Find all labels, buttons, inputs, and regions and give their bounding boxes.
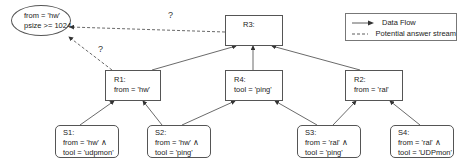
legend: Data Flow Potential answer stream xyxy=(345,13,457,41)
node-r1: R1: from = 'hw' xyxy=(105,70,161,101)
node-s4-line-1: from = 'ral' ∧ xyxy=(398,138,453,148)
edge-r3-query xyxy=(70,27,225,32)
edge-s2-r4 xyxy=(182,101,235,125)
solid-arrow-icon xyxy=(352,20,374,26)
node-s3: S3: from = 'ral' ∧ tool = 'ping' xyxy=(297,125,361,158)
node-r4: R4: tool = 'ping' xyxy=(225,70,283,101)
legend-label-data-flow: Data Flow xyxy=(382,17,416,28)
edge-s3-r2 xyxy=(333,101,356,125)
question-mark-left: ? xyxy=(98,44,103,54)
legend-item-potential-answer: Potential answer stream xyxy=(352,28,456,39)
node-s3-line-1: from = 'ral' ∧ xyxy=(305,138,360,148)
node-s2-line-1: from = 'hw' ∧ xyxy=(155,138,210,148)
node-s4-line-2: tool = 'UDPmon' xyxy=(398,148,453,158)
edge-s4-r2 xyxy=(390,101,420,125)
legend-label-potential-answer: Potential answer stream xyxy=(376,28,456,39)
edge-r1-query xyxy=(69,37,112,70)
query-line-1: from = 'hw' xyxy=(24,11,70,21)
edge-s2-r1 xyxy=(143,101,162,125)
node-r1-title: R1: xyxy=(114,75,160,85)
node-s2-line-2: tool = 'ping' xyxy=(155,148,210,158)
node-s1-line-2: tool = 'udpmon' xyxy=(63,148,118,158)
node-s2-title: S2: xyxy=(155,128,210,138)
node-s2: S2: from = 'hw' ∧ tool = 'ping' xyxy=(147,125,211,158)
node-r4-line-1: tool = 'ping' xyxy=(234,85,282,95)
node-r3-title: R3: xyxy=(234,20,282,30)
edge-r1-r3 xyxy=(152,46,236,70)
node-r3: R3: xyxy=(225,15,283,46)
question-mark-top: ? xyxy=(168,10,173,20)
node-s4: S4: from = 'ral' ∧ tool = 'UDPmon' xyxy=(390,125,454,158)
node-r2-line-1: from = 'ral' xyxy=(354,85,402,95)
edge-s3-r4 xyxy=(275,101,317,125)
edge-r2-r3 xyxy=(272,46,360,70)
node-r2: R2: from = 'ral' xyxy=(345,70,403,101)
node-s1-title: S1: xyxy=(63,128,118,138)
node-s4-title: S4: xyxy=(398,128,453,138)
node-s3-title: S3: xyxy=(305,128,360,138)
node-s1: S1: from = 'hw' ∧ tool = 'udpmon' xyxy=(55,125,119,158)
node-r4-title: R4: xyxy=(234,75,282,85)
query-ellipse: from = 'hw' psize >= 1024 xyxy=(11,5,71,36)
dashed-arrow-icon xyxy=(352,31,368,37)
legend-item-data-flow: Data Flow xyxy=(352,17,456,28)
edge-s1-r1 xyxy=(80,101,114,125)
node-r1-line-1: from = 'hw' xyxy=(114,85,160,95)
node-s3-line-2: tool = 'ping' xyxy=(305,148,360,158)
node-s1-line-1: from = 'hw' ∧ xyxy=(63,138,118,148)
node-r2-title: R2: xyxy=(354,75,402,85)
query-line-2: psize >= 1024 xyxy=(24,21,70,31)
